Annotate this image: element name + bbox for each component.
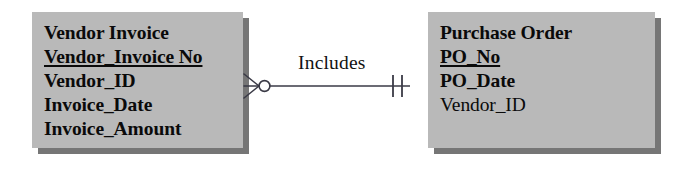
- entity-content-vendor-invoice: Vendor Invoice Vendor_Invoice No Vendor_…: [32, 12, 243, 141]
- relationship-includes[interactable]: Includes: [243, 52, 429, 108]
- attribute-vendor-id: Vendor_ID: [44, 69, 243, 93]
- attribute-invoice-date: Invoice_Date: [44, 93, 243, 117]
- attribute-primary-key-vendor-invoice-no: Vendor_Invoice No: [44, 45, 243, 69]
- entity-box-vendor-invoice[interactable]: Vendor Invoice Vendor_Invoice No Vendor_…: [32, 12, 243, 148]
- entity-title-vendor-invoice: Vendor Invoice: [44, 21, 243, 45]
- entity-title-purchase-order: Purchase Order: [440, 21, 655, 45]
- attribute-invoice-amount: Invoice_Amount: [44, 117, 243, 141]
- entity-box-purchase-order[interactable]: Purchase Order PO_No PO_Date Vendor_ID: [428, 12, 655, 148]
- attribute-foreign-key-vendor-id: Vendor_ID: [440, 93, 655, 117]
- er-diagram-canvas: Vendor Invoice Vendor_Invoice No Vendor_…: [0, 0, 673, 172]
- optional-circle-icon: [259, 81, 270, 92]
- attribute-primary-key-po-no: PO_No: [440, 45, 655, 69]
- entity-content-purchase-order: Purchase Order PO_No PO_Date Vendor_ID: [428, 12, 655, 117]
- relationship-label-includes: Includes: [298, 52, 366, 74]
- attribute-po-date: PO_Date: [440, 69, 655, 93]
- crows-foot-icon: [244, 74, 259, 98]
